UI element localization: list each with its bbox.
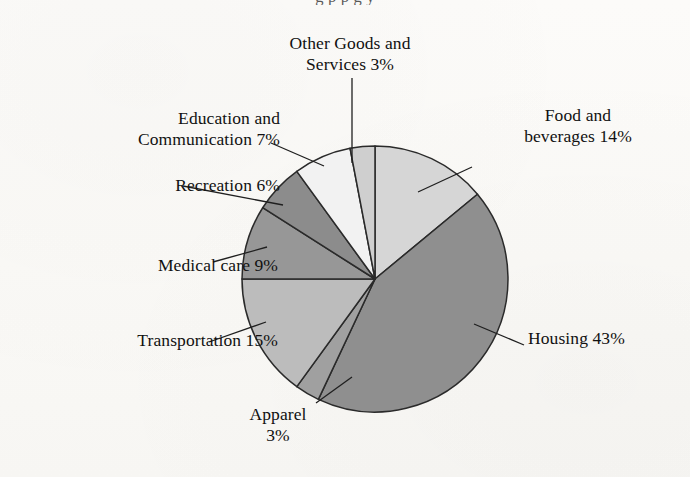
pie-chart-page: g p p g y Ot — [0, 0, 690, 477]
pie-chart: Other Goods and Services 3% Food and bev… — [0, 0, 690, 477]
pie-label-education-and-communication: Education and Communication 7% — [18, 108, 280, 150]
pie-label-apparel: Apparel 3% — [218, 404, 338, 446]
pie-label-medical-care: Medical care 9% — [10, 255, 278, 276]
pie-label-food-and-beverages: Food and beverages 14% — [478, 105, 678, 147]
pie-slice-group — [242, 146, 508, 412]
pie-label-other-goods-and-services: Other Goods and Services 3% — [240, 33, 460, 75]
pie-label-transportation: Transportation 15% — [0, 330, 278, 351]
pie-label-housing: Housing 43% — [528, 328, 690, 349]
pie-label-recreation: Recreation 6% — [18, 175, 280, 196]
